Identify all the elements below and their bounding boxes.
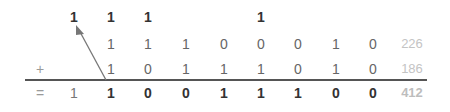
carry-arrow-icon: [0, 0, 450, 112]
